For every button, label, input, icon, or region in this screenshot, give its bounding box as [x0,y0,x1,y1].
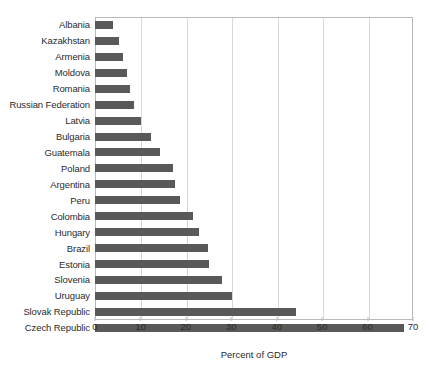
bar [95,133,151,141]
bar [95,101,134,109]
y-axis-labels: AlbaniaKazakhstanArmeniaMoldovaRomaniaRu… [0,17,90,320]
bar-row [95,192,413,208]
x-tick-label: 50 [317,321,328,332]
bar-row [95,17,413,33]
bar-row [95,33,413,49]
y-axis-label: Peru [0,192,90,208]
bar [95,212,193,220]
bar-rows [95,17,413,320]
x-tick-label: 70 [408,321,419,332]
y-axis-label: Czech Republic [0,320,90,336]
bar-chart: AlbaniaKazakhstanArmeniaMoldovaRomaniaRu… [0,0,429,382]
y-axis-label: Latvia [0,113,90,129]
y-axis-label: Hungary [0,224,90,240]
y-axis-label: Armenia [0,49,90,65]
bar [95,180,175,188]
bar [95,69,127,77]
bar [95,37,119,45]
y-axis-label: Albania [0,17,90,33]
x-tick-label: 30 [226,321,237,332]
bar-row [95,272,413,288]
bar-row [95,176,413,192]
bar-row [95,97,413,113]
bar [95,164,173,172]
x-tick-label: 60 [362,321,373,332]
bar [95,85,130,93]
bar [95,276,222,284]
bar-row [95,113,413,129]
bar [95,21,113,29]
x-axis-title: Percent of GDP [95,349,413,360]
bar-row [95,288,413,304]
bar-row [95,208,413,224]
bar [95,148,160,156]
y-axis-label: Uruguay [0,288,90,304]
y-axis-label: Poland [0,160,90,176]
y-axis-label: Colombia [0,208,90,224]
y-axis-label: Guatemala [0,145,90,161]
bar [95,196,180,204]
x-axis-ticks: 010203040506070 [95,321,413,337]
bar-row [95,145,413,161]
bar-row [95,160,413,176]
x-tick-label: 40 [271,321,282,332]
bar-row [95,304,413,320]
bar-row [95,81,413,97]
bar-row [95,224,413,240]
y-axis-label: Romania [0,81,90,97]
bar [95,53,123,61]
y-axis-label: Moldova [0,65,90,81]
y-axis-label: Argentina [0,176,90,192]
bar-row [95,129,413,145]
x-tick-label: 20 [181,321,192,332]
bar [95,260,209,268]
bar [95,117,141,125]
y-axis-label: Russian Federation [0,97,90,113]
bar [95,292,232,300]
bar [95,244,208,252]
y-axis-label: Brazil [0,240,90,256]
x-tick-label: 10 [135,321,146,332]
y-axis-label: Slovak Republic [0,304,90,320]
x-tick-label: 0 [92,321,97,332]
bar-row [95,256,413,272]
bar [95,308,296,316]
y-axis-label: Kazakhstan [0,33,90,49]
bar-row [95,240,413,256]
bar [95,228,199,236]
bar-row [95,65,413,81]
y-axis-label: Slovenia [0,272,90,288]
y-axis-label: Bulgaria [0,129,90,145]
y-axis-label: Estonia [0,256,90,272]
bar-row [95,49,413,65]
